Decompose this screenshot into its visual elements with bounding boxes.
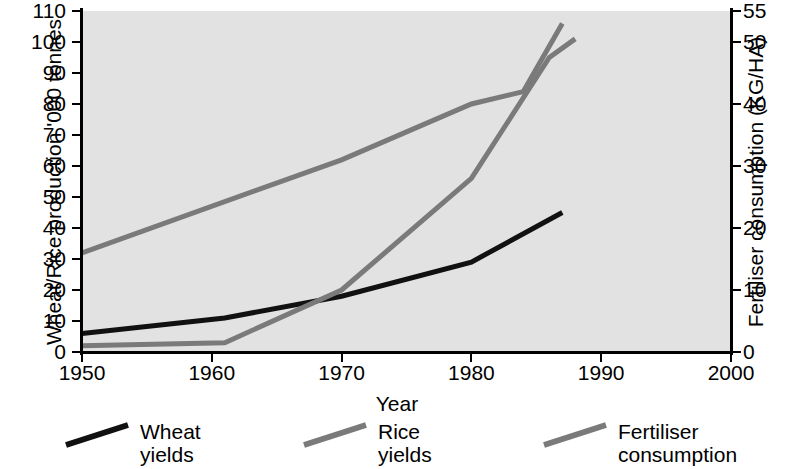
x-axis-tick-label: 1950 — [32, 362, 132, 383]
y-axis-left-tick — [72, 351, 80, 353]
y-axis-left-tick — [72, 289, 80, 291]
y-axis-left-tick — [72, 103, 80, 105]
plot-area — [82, 11, 731, 352]
series-line — [82, 213, 562, 334]
y-axis-right-spine — [730, 8, 733, 355]
y-axis-left-tick — [72, 196, 80, 198]
chart-legend: Wheat yields Rice yields Fertiliser cons… — [0, 418, 794, 466]
y-axis-left-tick — [72, 258, 80, 260]
y-axis-left-tick — [72, 10, 80, 12]
y-axis-left-tick — [72, 41, 80, 43]
y-axis-left-tick — [72, 134, 80, 136]
legend-line-icon-wheat-yields — [62, 422, 132, 448]
series-layer — [82, 11, 731, 352]
y-axis-left-tick — [72, 320, 80, 322]
x-axis-spine — [80, 351, 733, 354]
x-axis-title: Year — [0, 392, 794, 416]
x-axis-tick-label: 1990 — [551, 362, 651, 383]
chart-figure: 0102030405060708090100110 0102030405055 … — [0, 0, 794, 469]
y-axis-left-tick — [72, 72, 80, 74]
x-axis-tick-label: 2000 — [681, 362, 781, 383]
y-axis-left-tick — [72, 165, 80, 167]
x-axis-tick-label: 1970 — [292, 362, 392, 383]
legend-line-icon-fertiliser-consumption — [540, 422, 610, 448]
y-axis-right-title: Fertiliser consumption (KG/HA) — [744, 12, 768, 352]
y-axis-right-tick — [733, 41, 741, 43]
y-axis-left-tick — [72, 227, 80, 229]
y-axis-right-tick — [733, 165, 741, 167]
y-axis-left-title: Wheat/Rice production '000 tonnes — [42, 12, 66, 352]
legend-line-icon-rice-yields — [300, 422, 370, 448]
y-axis-right-tick — [733, 289, 741, 291]
y-axis-left-spine — [80, 8, 83, 355]
legend-label-rice-yields: Rice yields — [378, 420, 432, 466]
y-axis-right-tick — [733, 10, 741, 12]
y-axis-right-tick — [733, 227, 741, 229]
y-axis-right-tick — [733, 103, 741, 105]
x-axis-tick-label: 1960 — [162, 362, 262, 383]
y-axis-right-tick — [733, 351, 741, 353]
legend-label-fertiliser-consumption: Fertiliser consumption — [618, 420, 737, 466]
x-axis-tick-label: 1980 — [421, 362, 521, 383]
legend-label-wheat-yields: Wheat yields — [140, 420, 201, 466]
series-line — [82, 23, 562, 252]
